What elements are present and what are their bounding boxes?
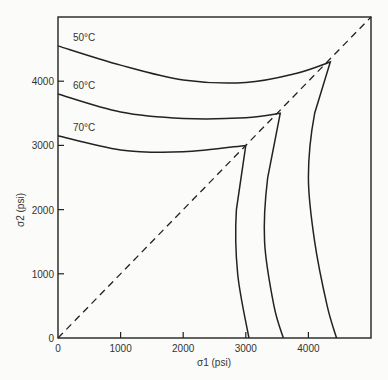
x-tick-label: 4000 bbox=[297, 343, 320, 354]
x-tick-label: 1000 bbox=[109, 343, 132, 354]
x-tick-label: 0 bbox=[55, 343, 61, 354]
y-tick-label: 1000 bbox=[32, 269, 55, 280]
curve-label: 70°C bbox=[73, 122, 95, 133]
curve-70c bbox=[58, 136, 249, 338]
curve-label: 50°C bbox=[73, 32, 95, 43]
y-tick-label: 4000 bbox=[32, 76, 55, 87]
x-tick-label: 2000 bbox=[172, 343, 195, 354]
y-tick-label: 2000 bbox=[32, 205, 55, 216]
x-axis-label: σ1 (psi) bbox=[197, 357, 231, 368]
curve-label: 60°C bbox=[73, 80, 95, 91]
y-tick-label: 0 bbox=[48, 333, 54, 344]
y-tick-label: 3000 bbox=[32, 140, 55, 151]
y-axis-label: σ2 (psi) bbox=[15, 193, 26, 227]
x-tick-label: 3000 bbox=[235, 343, 258, 354]
chart: 0100020003000400001000200030004000σ1 (ps… bbox=[0, 0, 388, 380]
curve-50c bbox=[58, 46, 337, 338]
